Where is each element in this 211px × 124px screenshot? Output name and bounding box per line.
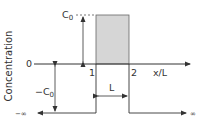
neg-infinity-label: −∞	[15, 110, 27, 118]
y-axis-label: Concentration	[3, 31, 14, 102]
concentration-pulse	[96, 15, 129, 64]
x-axis-label: x/L	[153, 67, 168, 78]
neg-c0-label: −C0	[35, 86, 54, 99]
tick-1-label: 1	[89, 67, 95, 78]
zero-label: 0	[26, 58, 32, 69]
c0-label: C0	[62, 9, 73, 22]
tick-2-label: 2	[131, 67, 137, 78]
concentration-diagram: Concentration C0 0 −C0 1 2 x/L L −∞ ∞	[0, 0, 211, 124]
pos-infinity-label: ∞	[190, 110, 196, 118]
width-label: L	[109, 82, 115, 93]
